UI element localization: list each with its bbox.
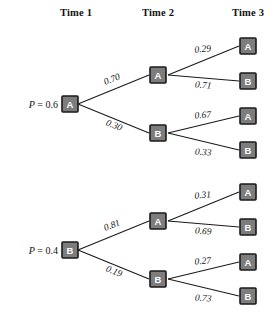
tree-2-prob-B-B-to-A: 0.27 <box>194 255 213 266</box>
tree-1-prob-A-B-to-A: 0.67 <box>194 109 213 120</box>
tree-2-time3-node-AB[interactable]: B <box>240 219 256 235</box>
tree-2-root-prior-value: 0.4 <box>46 245 59 256</box>
tree-2-prob-B-A-to-A: 0.31 <box>194 189 211 200</box>
tree-1-prob-A-A-to-B: 0.71 <box>195 79 212 90</box>
tree-2: P = 0.4 B A B A B A B <box>28 184 256 304</box>
tree-1-root-node-A[interactable]: A <box>62 96 78 112</box>
tree-2-time3-node-BB-label: B <box>245 291 252 302</box>
tree-1-prob-A-A-to-A: 0.29 <box>194 43 212 54</box>
tree-1-time2-node-A[interactable]: A <box>150 67 166 83</box>
tree-2-time3-node-AA-label: A <box>245 187 252 198</box>
tree-2-time3-node-BA-label: A <box>245 257 252 268</box>
tree-1-root-prior-value: 0.6 <box>46 99 59 110</box>
column-header-time-2: Time 2 <box>142 7 174 18</box>
tree-2-time2-node-B[interactable]: B <box>150 271 166 287</box>
tree-1-time3-node-BA[interactable]: A <box>240 108 256 124</box>
tree-2-prob-B-A-to-B: 0.69 <box>195 225 213 236</box>
tree-1-prob-A-to-B: 0.30 <box>105 117 124 133</box>
tree-1-time2-node-A-label: A <box>155 70 162 81</box>
tree-2-time2-node-A-label: A <box>155 216 162 227</box>
tree-1-root-node-label: A <box>67 99 74 110</box>
tree-2-time2-node-B-label: B <box>155 274 162 285</box>
tree-1-time3-node-BA-label: A <box>245 111 252 122</box>
tree-1-time3-node-AA-label: A <box>245 41 252 52</box>
tree-2-root-prior-label: P = 0.4 <box>28 245 58 256</box>
tree-1-time3-node-AA[interactable]: A <box>240 38 256 54</box>
column-headers: Time 1 Time 2 Time 3 <box>60 7 264 18</box>
tree-1-time3-node-AB-label: B <box>245 76 252 87</box>
tree-2-root-node-B[interactable]: B <box>62 242 78 258</box>
tree-2-time2-node-A[interactable]: A <box>150 213 166 229</box>
tree-1-root-prior-label: P = 0.6 <box>28 99 58 110</box>
tree-1-time3-node-BB-label: B <box>245 145 252 156</box>
tree-2-prob-B-B-to-B: 0.73 <box>195 292 213 303</box>
tree-1: P = 0.6 A A B A B A B <box>28 38 256 158</box>
tree-1-prob-A-to-A: 0.70 <box>102 71 121 87</box>
column-header-time-1: Time 1 <box>60 7 92 18</box>
tree-1-time3-node-AB[interactable]: B <box>240 73 256 89</box>
tree-2-time3-node-AB-label: B <box>245 222 252 233</box>
tree-2-prob-B-to-B: 0.19 <box>105 263 124 279</box>
tree-2-time3-node-AA[interactable]: A <box>240 184 256 200</box>
probability-tree-diagram: Time 1 Time 2 Time 3 P = 0.6 A A B <box>0 0 280 312</box>
tree-2-time3-node-BB[interactable]: B <box>240 288 256 304</box>
tree-2-prob-B-to-A: 0.81 <box>102 217 121 232</box>
tree-2-root-node-label: B <box>67 245 74 256</box>
tree-2-time3-node-BA[interactable]: A <box>240 254 256 270</box>
tree-1-time3-node-BB[interactable]: B <box>240 142 256 158</box>
column-header-time-3: Time 3 <box>232 7 264 18</box>
tree-1-time2-node-B[interactable]: B <box>150 125 166 141</box>
tree-1-time2-node-B-label: B <box>155 128 162 139</box>
tree-1-prob-A-B-to-B: 0.33 <box>195 146 213 157</box>
